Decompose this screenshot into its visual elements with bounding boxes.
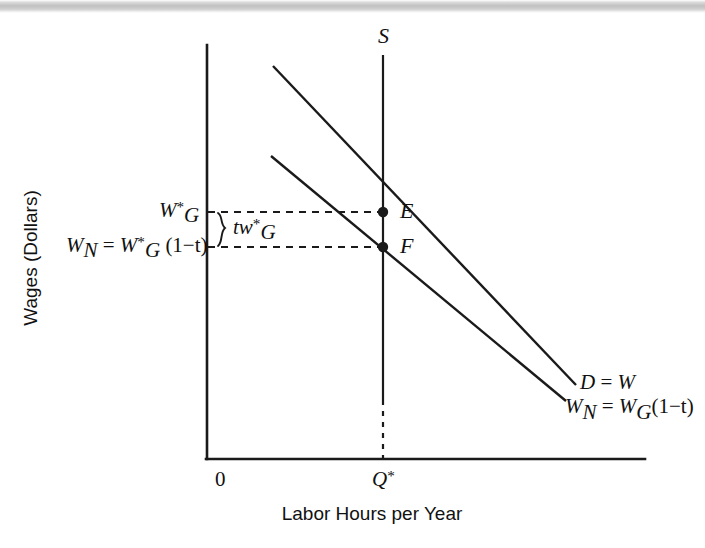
- wage-net-tail: (1−t): [160, 233, 207, 257]
- point-e-label: E: [400, 200, 413, 222]
- supply-curve-label: S: [378, 25, 389, 47]
- wage-net-sub-n: N: [84, 238, 98, 262]
- x-axis-title: Labor Hours per Year: [282, 504, 463, 523]
- demand-net-sub-n: N: [583, 400, 597, 424]
- y-axis-title-wrapper: Wages (Dollars): [21, 153, 41, 363]
- q-star-tick-label: Q*: [372, 468, 395, 490]
- wage-net-equals: =: [98, 233, 120, 257]
- point-f-marker: [378, 242, 388, 252]
- point-e-label-text: E: [400, 198, 413, 223]
- tax-wedge-brace: [218, 213, 225, 246]
- demand-d: D: [580, 370, 595, 394]
- origin-tick-label: 0: [215, 469, 226, 490]
- supply-curve-label-text: S: [378, 23, 389, 48]
- q-star-letter: Q: [372, 467, 387, 491]
- wage-gross-axis-label: W*G: [159, 199, 199, 226]
- demand-gross-curve: [273, 66, 576, 385]
- demand-net-w: W: [565, 394, 583, 418]
- wage-net-wg-sub: G: [145, 238, 160, 262]
- wage-gross-sub: G: [184, 203, 199, 227]
- demand-net-tail: (1−t): [652, 394, 694, 418]
- y-axis-title: Wages (Dollars): [20, 190, 41, 326]
- figure-page: Wages (Dollars) Labor Hours per Year 0 Q…: [0, 0, 705, 548]
- wage-gross-star: *: [177, 198, 185, 215]
- demand-net-wg: W: [619, 394, 637, 418]
- wage-net-wg-star: *: [137, 233, 145, 250]
- q-star-asterisk: *: [387, 467, 395, 484]
- demand-gross-label: D = W: [580, 372, 635, 393]
- demand-w: W: [618, 370, 636, 394]
- tax-wedge-label: tw*G: [233, 216, 276, 243]
- tax-wedge-sub: G: [260, 220, 275, 244]
- tax-wedge-w: w: [239, 215, 253, 239]
- wage-net-axis-label: WN = W*G (1−t): [66, 234, 208, 261]
- wage-gross-w: W: [159, 198, 177, 222]
- demand-equals: =: [595, 370, 617, 394]
- demand-net-label: WN = WG(1−t): [565, 396, 694, 423]
- wage-net-wg: W: [120, 233, 138, 257]
- point-e-marker: [378, 207, 388, 217]
- point-f-label-text: F: [400, 233, 413, 258]
- demand-net-equals: =: [597, 394, 619, 418]
- point-f-label: F: [400, 235, 413, 257]
- demand-net-wg-sub: G: [636, 400, 651, 424]
- labor-market-tax-diagram: [0, 0, 705, 548]
- demand-net-curve: [271, 156, 566, 401]
- wage-net-w: W: [66, 233, 84, 257]
